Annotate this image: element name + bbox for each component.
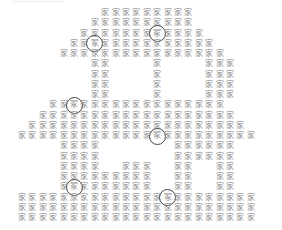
grid-character[interactable]: 家: [183, 131, 193, 141]
grid-character[interactable]: 家: [163, 121, 173, 131]
grid-character[interactable]: 家: [38, 131, 48, 141]
grid-character[interactable]: 家: [173, 100, 183, 110]
grid-character[interactable]: 家: [17, 131, 27, 141]
grid-character[interactable]: 家: [79, 152, 89, 162]
grid-character[interactable]: 家: [215, 172, 225, 182]
grid-character[interactable]: 家: [100, 172, 110, 182]
grid-character[interactable]: 家: [204, 121, 214, 131]
grid-character[interactable]: 家: [142, 193, 152, 203]
grid-character[interactable]: 家: [17, 213, 27, 223]
grid-character[interactable]: 家: [163, 8, 173, 18]
grid-character[interactable]: 家: [142, 162, 152, 172]
grid-character[interactable]: 家: [225, 70, 235, 80]
grid-character[interactable]: 家: [27, 193, 37, 203]
grid-character[interactable]: 家: [111, 39, 121, 49]
grid-character[interactable]: 家: [69, 131, 79, 141]
grid-character[interactable]: 家: [142, 111, 152, 121]
grid-character[interactable]: 家: [59, 49, 69, 59]
grid-character[interactable]: 家: [235, 213, 245, 223]
grid-character[interactable]: 家: [215, 141, 225, 151]
grid-character[interactable]: 家: [152, 90, 162, 100]
grid-character[interactable]: 家: [173, 111, 183, 121]
grid-character[interactable]: 家: [121, 203, 131, 213]
grid-character[interactable]: 家: [121, 8, 131, 18]
grid-character[interactable]: 家: [152, 49, 162, 59]
grid-character[interactable]: 家: [142, 172, 152, 182]
grid-character[interactable]: 家: [131, 182, 141, 192]
grid-character[interactable]: 家: [183, 18, 193, 28]
grid-character[interactable]: 家: [204, 203, 214, 213]
grid-character[interactable]: 家: [142, 182, 152, 192]
grid-character[interactable]: 家: [69, 162, 79, 172]
grid-character[interactable]: 家: [131, 121, 141, 131]
grid-character[interactable]: 家: [59, 193, 69, 203]
grid-character[interactable]: 家: [111, 172, 121, 182]
grid-character[interactable]: 家: [163, 203, 173, 213]
grid-character[interactable]: 家: [131, 131, 141, 141]
grid-character[interactable]: 家: [59, 121, 69, 131]
grid-character[interactable]: 家: [90, 152, 100, 162]
grid-character[interactable]: 家: [111, 131, 121, 141]
grid-character[interactable]: 家: [121, 131, 131, 141]
grid-character[interactable]: 家: [90, 213, 100, 223]
grid-character[interactable]: 家: [121, 29, 131, 39]
grid-character[interactable]: 家: [173, 39, 183, 49]
grid-character[interactable]: 家: [90, 141, 100, 151]
grid-character[interactable]: 家: [225, 90, 235, 100]
grid-character[interactable]: 家: [100, 213, 110, 223]
grid-character[interactable]: 家: [38, 121, 48, 131]
grid-character[interactable]: 家: [111, 182, 121, 192]
grid-character[interactable]: 家: [152, 59, 162, 69]
grid-character[interactable]: 家: [142, 100, 152, 110]
grid-character[interactable]: 家: [79, 193, 89, 203]
grid-character[interactable]: 家: [173, 29, 183, 39]
grid-character[interactable]: 家: [225, 182, 235, 192]
grid-character[interactable]: 家: [121, 121, 131, 131]
grid-character[interactable]: 家: [69, 152, 79, 162]
grid-character[interactable]: 家: [204, 152, 214, 162]
grid-character[interactable]: 家: [225, 131, 235, 141]
grid-character[interactable]: 家: [215, 70, 225, 80]
grid-character[interactable]: 家: [183, 100, 193, 110]
grid-character[interactable]: 家: [204, 213, 214, 223]
grid-character[interactable]: 家: [48, 193, 58, 203]
grid-character[interactable]: 家: [215, 49, 225, 59]
grid-character[interactable]: 家: [48, 111, 58, 121]
grid-character[interactable]: 家: [100, 49, 110, 59]
grid-character[interactable]: 家: [204, 80, 214, 90]
grid-character[interactable]: 家: [121, 193, 131, 203]
grid-character[interactable]: 家: [183, 8, 193, 18]
grid-character[interactable]: 家: [90, 49, 100, 59]
grid-character[interactable]: 家: [111, 8, 121, 18]
grid-character[interactable]: 家: [100, 111, 110, 121]
grid-character[interactable]: 家: [152, 70, 162, 80]
grid-character[interactable]: 家: [38, 203, 48, 213]
grid-character[interactable]: 家: [215, 162, 225, 172]
grid-character[interactable]: 家: [152, 39, 162, 49]
grid-character[interactable]: 家: [235, 193, 245, 203]
grid-character[interactable]: 家: [121, 162, 131, 172]
grid-character[interactable]: 家: [100, 59, 110, 69]
grid-character[interactable]: 家: [69, 39, 79, 49]
grid-character[interactable]: 家: [183, 172, 193, 182]
grid-character[interactable]: 家: [69, 203, 79, 213]
grid-character[interactable]: 家: [90, 111, 100, 121]
grid-character[interactable]: 家: [204, 90, 214, 100]
grid-character[interactable]: 家: [173, 141, 183, 151]
grid-character[interactable]: 家: [90, 59, 100, 69]
grid-character[interactable]: 家: [215, 121, 225, 131]
grid-character[interactable]: 家: [90, 80, 100, 90]
grid-character[interactable]: 家: [59, 213, 69, 223]
grid-character[interactable]: 家: [100, 193, 110, 203]
grid-character[interactable]: 家: [194, 203, 204, 213]
grid-character[interactable]: 家: [173, 213, 183, 223]
grid-character[interactable]: 家: [204, 100, 214, 110]
grid-character[interactable]: 家: [111, 111, 121, 121]
grid-character[interactable]: 家: [215, 100, 225, 110]
grid-character[interactable]: 家: [131, 172, 141, 182]
grid-character[interactable]: 家: [225, 213, 235, 223]
grid-character[interactable]: 家: [194, 152, 204, 162]
grid-character[interactable]: 家: [69, 193, 79, 203]
grid-character[interactable]: 家: [225, 59, 235, 69]
grid-character[interactable]: 家: [131, 162, 141, 172]
